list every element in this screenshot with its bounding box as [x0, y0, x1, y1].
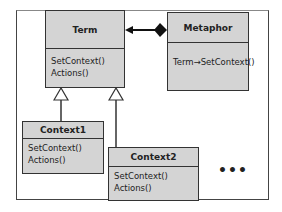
class-context2: Context2 SetContext() Actions() — [108, 147, 199, 201]
generalization-triangle-icon — [109, 88, 123, 100]
operation: SetContext() — [114, 170, 193, 182]
class-name: Metaphor — [168, 13, 248, 43]
operation: Actions() — [114, 182, 193, 194]
operation: Actions() — [28, 154, 98, 166]
arrowhead-icon — [125, 26, 133, 34]
composition-diamond-icon — [154, 23, 167, 37]
operation: Term→SetContext() — [173, 56, 243, 68]
operation: SetContext() — [51, 55, 119, 67]
class-context1: Context1 SetContext() Actions() — [22, 121, 104, 174]
class-term: Term SetContext() Actions() — [45, 10, 125, 88]
class-name: Term — [46, 11, 124, 49]
class-name: Context1 — [23, 122, 103, 139]
generalization-triangle-icon — [54, 88, 68, 100]
class-metaphor: Metaphor Term→SetContext() — [167, 12, 249, 91]
operation: Actions() — [51, 67, 119, 79]
ellipsis: ••• — [218, 162, 248, 178]
operation: SetContext() — [28, 142, 98, 154]
class-name: Context2 — [109, 148, 198, 167]
